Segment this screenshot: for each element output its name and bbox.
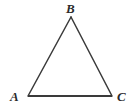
vertex-label-a: A [10, 90, 19, 103]
geometry-figure: A B C [0, 0, 134, 112]
triangle-side-ab [28, 17, 71, 96]
triangle-side-bc [71, 17, 112, 96]
triangle-drawing [0, 0, 134, 112]
vertex-label-b: B [66, 2, 75, 15]
vertex-label-c: C [117, 90, 126, 103]
